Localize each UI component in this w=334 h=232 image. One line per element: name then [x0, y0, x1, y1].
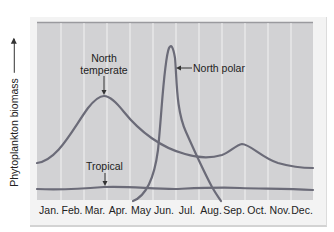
annotation-north-temperate: North temperate	[76, 52, 132, 76]
x-tick-oct: Oct.	[247, 204, 266, 216]
plot-area	[37, 22, 313, 200]
x-tick-mar: Mar.	[85, 204, 105, 216]
annotation-tropical: Tropical	[86, 160, 123, 172]
x-tick-jul: Jul.	[179, 204, 195, 216]
annotation-north-polar: North polar	[193, 62, 245, 74]
x-tick-nov: Nov.	[270, 204, 291, 216]
x-axis-ticks: Jan. Feb. Mar. Apr. May Jun. Jul. Aug. S…	[37, 204, 313, 218]
x-tick-may: May	[131, 204, 151, 216]
x-tick-sep: Sep.	[223, 204, 245, 216]
x-tick-feb: Feb.	[61, 204, 82, 216]
y-axis-label: Phytoplankton biomass	[2, 28, 26, 198]
x-tick-aug: Aug.	[200, 204, 222, 216]
x-tick-dec: Dec.	[291, 204, 313, 216]
y-axis-arrow-icon	[14, 39, 15, 73]
annotation-north-temperate-line2: temperate	[76, 64, 132, 76]
x-tick-apr: Apr.	[109, 204, 128, 216]
annotation-north-temperate-line1: North	[76, 52, 132, 64]
y-axis-label-text: Phytoplankton biomass	[8, 78, 20, 187]
x-tick-jan: Jan.	[39, 204, 59, 216]
x-tick-jun: Jun.	[154, 204, 174, 216]
chart-plot	[0, 0, 334, 232]
